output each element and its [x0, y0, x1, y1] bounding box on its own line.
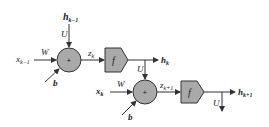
h-output-label-2: hk+1	[238, 87, 252, 98]
h-prev-label: hk−1	[63, 11, 78, 23]
x-input-label-2: xk	[95, 86, 104, 97]
w-label-1: W	[41, 47, 50, 57]
bias-label-2: b	[128, 112, 133, 122]
z-label-2: zk+1	[159, 80, 173, 91]
plus-icon-2: +	[143, 88, 148, 97]
activation-node-2	[181, 81, 204, 103]
plus-icon-1: +	[67, 56, 72, 65]
bias-label-1: b	[53, 78, 58, 88]
u-label-2: U	[137, 64, 144, 74]
u-label-1: U	[61, 29, 68, 39]
step-1: hk−1 U xk−1 W + b zk f hk	[15, 11, 169, 88]
z-label-1: zk	[87, 48, 95, 59]
w-label-2: W	[117, 79, 126, 89]
rnn-diagram: hk−1 U xk−1 W + b zk f hk U xk W + b zk+…	[0, 0, 269, 127]
activation-node-1	[105, 48, 128, 72]
step-2: U xk W + b zk+1 f hk+1 U	[95, 64, 252, 122]
h-output-label-1: hk	[161, 55, 169, 66]
x-input-label-1: xk−1	[15, 54, 30, 65]
u-label-3: U	[213, 98, 220, 108]
